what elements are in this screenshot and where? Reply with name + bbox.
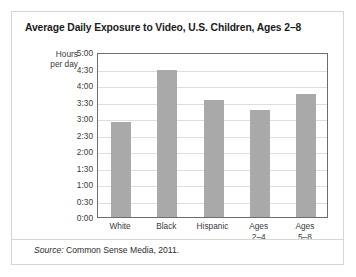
y-tick-label: 0:30 — [47, 197, 93, 207]
chart-title: Average Daily Exposure to Video, U.S. Ch… — [25, 22, 335, 33]
gridline — [98, 87, 327, 88]
y-axis-tick-labels: 5:004:304:003:303:002:302:001:301:000:30… — [43, 53, 93, 218]
figure-card: Average Daily Exposure to Video, U.S. Ch… — [11, 11, 344, 265]
source-text: Common Sense Media, 2011. — [64, 245, 179, 255]
y-tick-label: 3:00 — [47, 114, 93, 124]
y-tick-label: 1:00 — [47, 180, 93, 190]
y-tick-label: 4:30 — [47, 65, 93, 75]
source-label: Source: — [34, 245, 64, 255]
bar-hispanic — [204, 100, 224, 217]
bar-ages-5-8 — [296, 94, 316, 217]
bar-white — [111, 122, 131, 217]
footer-divider — [12, 239, 343, 240]
y-tick-label: 2:00 — [47, 147, 93, 157]
y-tick-label: 5:00 — [47, 48, 93, 58]
gridline — [98, 71, 327, 72]
plot-area — [97, 53, 328, 218]
bar-black — [157, 70, 177, 217]
bar-ages-2-4 — [250, 110, 270, 217]
y-tick-label: 4:00 — [47, 81, 93, 91]
source-note: Source: Common Sense Media, 2011. — [34, 245, 179, 255]
x-tick-label-line: Ages — [276, 221, 334, 232]
y-tick-label: 3:30 — [47, 98, 93, 108]
plot-wrapper — [97, 53, 328, 218]
y-tick-label: 0:00 — [47, 213, 93, 223]
y-tick-label: 1:30 — [47, 164, 93, 174]
y-tick-label: 2:30 — [47, 131, 93, 141]
x-tick-label-line: 5–8 — [276, 232, 334, 243]
